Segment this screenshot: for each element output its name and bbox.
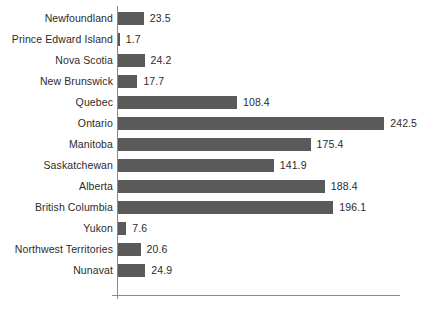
bar-chart: Newfoundland23.5Prince Edward Island1.7N… — [0, 0, 430, 315]
bar — [118, 222, 126, 235]
chart-row: Newfoundland23.5 — [0, 8, 430, 29]
value-label: 7.6 — [132, 222, 147, 235]
bar — [118, 264, 145, 277]
value-label: 108.4 — [243, 96, 270, 109]
chart-row: Manitoba175.4 — [0, 134, 430, 155]
value-label: 242.5 — [390, 117, 417, 130]
chart-row: Yukon7.6 — [0, 218, 430, 239]
bar — [118, 159, 274, 172]
bar — [118, 33, 120, 46]
value-label: 17.7 — [143, 75, 164, 88]
chart-row: Northwest Territories20.6 — [0, 239, 430, 260]
bar-group: 175.4 — [118, 138, 343, 151]
category-label: Yukon — [0, 218, 113, 239]
category-label: Manitoba — [0, 134, 113, 155]
category-label: British Columbia — [0, 197, 113, 218]
bar-group: 1.7 — [118, 33, 141, 46]
bar — [118, 138, 311, 151]
bar — [118, 180, 325, 193]
chart-row: Saskatchewan141.9 — [0, 155, 430, 176]
chart-row: British Columbia196.1 — [0, 197, 430, 218]
bar-group: 188.4 — [118, 180, 358, 193]
bar-group: 20.6 — [118, 243, 167, 256]
bar — [118, 12, 144, 25]
bar-group: 108.4 — [118, 96, 270, 109]
category-label: Ontario — [0, 113, 113, 134]
value-label: 175.4 — [317, 138, 344, 151]
bar — [118, 75, 137, 88]
category-label: Quebec — [0, 92, 113, 113]
bar-group: 196.1 — [118, 201, 366, 214]
category-label: Nova Scotia — [0, 50, 113, 71]
bar — [118, 54, 145, 67]
bar — [118, 96, 237, 109]
chart-row: New Brunswick17.7 — [0, 71, 430, 92]
chart-row: Ontario242.5 — [0, 113, 430, 134]
bar-group: 23.5 — [118, 12, 171, 25]
value-label: 20.6 — [147, 243, 168, 256]
value-label: 1.7 — [126, 33, 141, 46]
bar — [118, 201, 333, 214]
chart-row: Nunavat24.9 — [0, 260, 430, 281]
category-label: Alberta — [0, 176, 113, 197]
category-label: Northwest Territories — [0, 239, 113, 260]
bar-group: 141.9 — [118, 159, 307, 172]
value-label: 196.1 — [339, 201, 366, 214]
category-label: Newfoundland — [0, 8, 113, 29]
category-label: Prince Edward Island — [0, 29, 113, 50]
bar-group: 24.2 — [118, 54, 171, 67]
origin-tick-mark — [112, 295, 118, 296]
value-label: 24.2 — [151, 54, 172, 67]
chart-row: Quebec108.4 — [0, 92, 430, 113]
category-label: Saskatchewan — [0, 155, 113, 176]
chart-row: Prince Edward Island1.7 — [0, 29, 430, 50]
bar — [118, 243, 141, 256]
bar — [118, 117, 384, 130]
value-label: 188.4 — [331, 180, 358, 193]
value-label: 141.9 — [280, 159, 307, 172]
category-label: Nunavat — [0, 260, 113, 281]
bar-group: 242.5 — [118, 117, 417, 130]
chart-row: Alberta188.4 — [0, 176, 430, 197]
bar-group: 7.6 — [118, 222, 147, 235]
category-label: New Brunswick — [0, 71, 113, 92]
value-label: 23.5 — [150, 12, 171, 25]
x-axis-line — [112, 295, 400, 296]
chart-row: Nova Scotia24.2 — [0, 50, 430, 71]
bar-group: 24.9 — [118, 264, 172, 277]
value-label: 24.9 — [151, 264, 172, 277]
bar-group: 17.7 — [118, 75, 164, 88]
